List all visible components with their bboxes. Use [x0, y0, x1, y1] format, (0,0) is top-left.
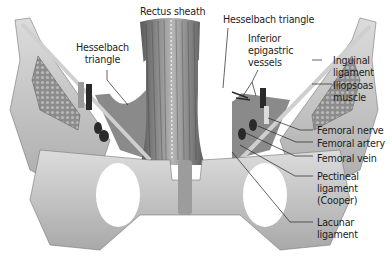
- label-lacunar-ligament: Lacunar ligament: [317, 217, 358, 241]
- label-rectus-sheath: Rectus sheath: [140, 6, 205, 18]
- label-inguinal-ligament: Inguinal ligament: [333, 55, 374, 79]
- label-femoral-vein: Femoral vein: [317, 153, 377, 165]
- label-iliopsoas-muscle: Iliopsoas muscle: [333, 80, 373, 104]
- label-hesselbach-triangle-right: Hesselbach triangle: [223, 14, 314, 26]
- label-hesselbach-triangle-left: Hesselbach triangle: [76, 42, 129, 66]
- rectus-sheath: [140, 18, 205, 165]
- label-femoral-artery: Femoral artery: [317, 138, 385, 150]
- pubic-symphysis: [178, 160, 192, 215]
- right-obturator-foramen: [243, 163, 287, 227]
- label-inferior-epigastric-vessels: Inferior epigastric vessels: [248, 33, 293, 69]
- label-pectineal-ligament: Pectineal ligament (Cooper): [317, 171, 359, 207]
- leader-inferior-epigastric: [243, 70, 258, 96]
- left-obturator-foramen: [96, 163, 140, 227]
- label-femoral-nerve: Femoral nerve: [317, 125, 384, 137]
- leader-hesselbach-right: [223, 28, 228, 88]
